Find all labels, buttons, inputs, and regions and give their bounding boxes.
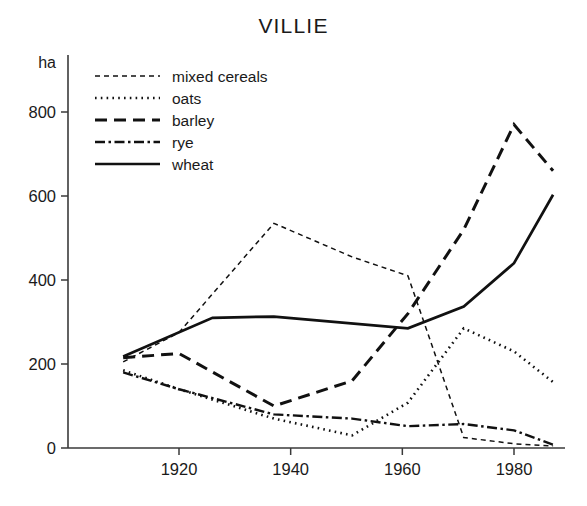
y-axis-tick-label: 400 bbox=[28, 271, 56, 289]
x-axis-tick-label: 1960 bbox=[384, 460, 421, 478]
y-axis-tick-label: 800 bbox=[28, 103, 56, 121]
y-axis-unit-label: ha bbox=[38, 54, 56, 71]
legend-label-oats: oats bbox=[172, 90, 202, 107]
x-axis-tick-label: 1980 bbox=[496, 460, 533, 478]
series-line-oats bbox=[123, 328, 553, 435]
legend-label-mixed-cereals: mixed cereals bbox=[172, 68, 268, 85]
chart-figure: VILLIE 02004006008001920194019601980ha m… bbox=[0, 0, 587, 506]
chart-axes: 02004006008001920194019601980ha bbox=[28, 54, 565, 478]
line-chart-plot: 02004006008001920194019601980ha mixed ce… bbox=[0, 0, 587, 506]
series-line-mixed-cereals bbox=[123, 223, 553, 446]
y-axis-tick-label: 0 bbox=[47, 439, 56, 457]
y-axis-tick-label: 200 bbox=[28, 355, 56, 373]
y-axis-tick-label: 600 bbox=[28, 187, 56, 205]
series-line-wheat bbox=[123, 195, 553, 357]
legend-label-barley: barley bbox=[172, 112, 214, 129]
series-line-rye bbox=[123, 372, 553, 444]
legend-label-rye: rye bbox=[172, 134, 194, 151]
x-axis-tick-label: 1920 bbox=[161, 460, 198, 478]
chart-legend: mixed cerealsoatsbarleyryewheat bbox=[95, 68, 268, 173]
x-axis-tick-label: 1940 bbox=[272, 460, 309, 478]
legend-label-wheat: wheat bbox=[171, 156, 214, 173]
